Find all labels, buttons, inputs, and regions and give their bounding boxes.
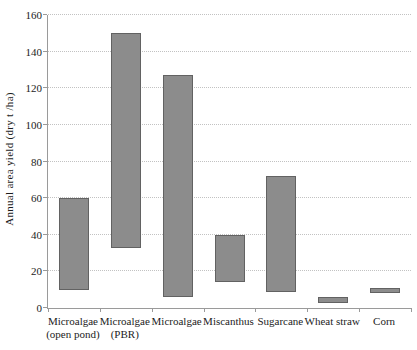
y-tick-label-20: 20 (0, 265, 42, 277)
gridline-80 (48, 161, 411, 162)
y-tick-160 (43, 14, 47, 15)
bar-microalgae-pbr (111, 33, 141, 247)
x-tick-7 (411, 308, 412, 312)
bar-microalgae (163, 75, 193, 297)
y-tick-label-160: 160 (0, 9, 42, 21)
gridline-120 (48, 87, 411, 88)
y-tick-label-40: 40 (0, 229, 42, 241)
bar-wheat-straw (318, 297, 348, 302)
bar-sugarcane (266, 176, 296, 291)
y-tick-20 (43, 270, 47, 271)
gridline-100 (48, 124, 411, 125)
x-tick-2 (152, 308, 153, 312)
gridline-140 (48, 51, 411, 52)
gridline-160 (48, 14, 411, 15)
y-tick-label-140: 140 (0, 46, 42, 58)
gridline-60 (48, 197, 411, 198)
bar-corn (370, 288, 400, 293)
y-tick-label-100: 100 (0, 119, 42, 131)
x-tick-4 (255, 308, 256, 312)
y-tick-120 (43, 87, 47, 88)
y-tick-label-80: 80 (0, 156, 42, 168)
y-tick-100 (43, 124, 47, 125)
bar-microalgae-open-pond (59, 198, 89, 290)
y-tick-140 (43, 51, 47, 52)
annual-area-yield-chart: Annual area yield (dry t /ha) 0204060801… (0, 0, 417, 350)
y-tick-0 (43, 307, 47, 308)
y-tick-60 (43, 197, 47, 198)
y-tick-80 (43, 161, 47, 162)
x-tick-0 (48, 308, 49, 312)
y-tick-40 (43, 234, 47, 235)
plot-area (47, 15, 411, 309)
x-tick-1 (100, 308, 101, 312)
y-tick-label-60: 60 (0, 192, 42, 204)
x-tick-5 (307, 308, 308, 312)
category-label-corn: Corn (352, 315, 416, 328)
y-tick-label-120: 120 (0, 82, 42, 94)
y-tick-label-0: 0 (0, 302, 42, 314)
x-tick-3 (204, 308, 205, 312)
bar-miscanthus (215, 235, 245, 283)
x-tick-6 (359, 308, 360, 312)
